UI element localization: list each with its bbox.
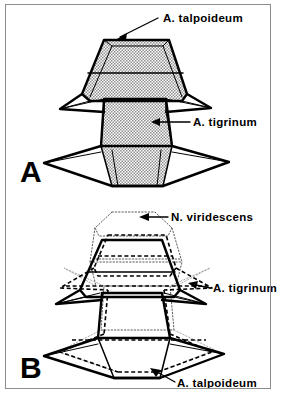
panel-b-talpoideum-lower-fold-left [44,344,114,378]
panel-b-letter: B [20,351,42,384]
panel-b-talpoideum-waist [98,293,170,338]
panel-b-viridescens-top [95,212,172,236]
panel-a-graphic: A A. talpoideum A. tigrinum [20,12,257,188]
panel-a-letter: A [20,155,42,188]
panel-b-label-viridescens: N. viridescens [171,211,253,223]
panel-b-label-talpoideum: A. talpoideum [177,377,257,389]
panel-b-arrowhead-viridescens [139,213,149,221]
figure-container: A A. talpoideum A. tigrinum [0,0,282,395]
panel-b-talpoideum-ridge-right [160,338,170,378]
panel-b-talpoideum-upper [80,240,180,297]
panel-a-arrowhead-talpoideum [117,33,127,40]
panel-b-talpoideum-lower-fold-right [160,344,224,378]
panel-a-lower-shade [101,146,172,186]
panel-b-label-tigrinum: A. tigrinum [213,282,277,294]
panel-b-talpoideum-ridge-left [98,338,114,378]
panel-b-graphic: B N. viridescens A. tigrinum A. talpoide… [20,211,277,389]
panel-b-arrowhead-tigrinum [188,281,198,289]
panel-a-label-talpoideum: A. talpoideum [163,12,243,24]
figure-canvas: A A. talpoideum A. tigrinum [0,0,282,395]
panel-a-label-tigrinum: A. tigrinum [193,116,257,128]
